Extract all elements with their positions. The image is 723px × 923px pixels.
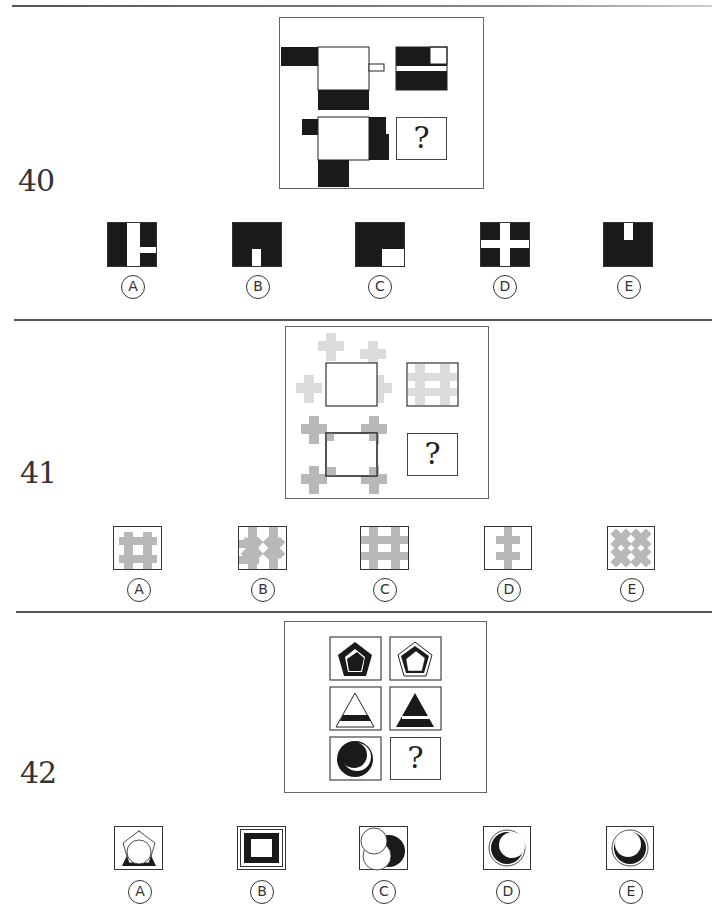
option-label-b: B (250, 880, 274, 904)
option-40-c[interactable] (355, 222, 405, 268)
option-label-a: A (121, 275, 145, 299)
option-41-b[interactable] (238, 526, 288, 571)
option-figure (237, 826, 287, 872)
option-41-d[interactable] (484, 526, 534, 571)
question-mark: ? (424, 436, 440, 471)
option-42-d[interactable] (483, 826, 533, 872)
option-figure (484, 526, 534, 571)
option-figure (238, 526, 288, 571)
question-mark: ? (413, 120, 429, 155)
section-divider-top (12, 5, 712, 7)
option-label-c: C (372, 880, 396, 904)
option-41-e[interactable] (607, 526, 657, 571)
option-figure (480, 222, 530, 268)
option-40-a[interactable] (107, 222, 157, 268)
option-figure (232, 222, 282, 268)
option-label-b: B (251, 578, 275, 602)
section-divider-40-41 (14, 319, 712, 321)
answer-placeholder-cell: ? (407, 433, 458, 476)
option-label-e: E (617, 275, 641, 299)
answer-placeholder-cell: ? (396, 117, 447, 160)
option-figure (359, 826, 409, 872)
option-label-d: D (496, 880, 520, 904)
option-figure (107, 222, 157, 268)
option-label-d: D (493, 275, 517, 299)
option-label-b: B (246, 275, 270, 299)
option-label-a: A (127, 578, 151, 602)
question-mark: ? (407, 740, 423, 775)
option-42-c[interactable] (359, 826, 409, 872)
option-label-d: D (497, 578, 521, 602)
option-figure (355, 222, 405, 268)
option-figure (607, 526, 657, 571)
option-label-c: C (373, 578, 397, 602)
option-42-e[interactable] (606, 826, 656, 872)
option-40-d[interactable] (480, 222, 530, 268)
section-divider-41-42 (16, 611, 712, 613)
option-40-b[interactable] (232, 222, 282, 268)
answer-placeholder-cell: ? (390, 737, 441, 780)
option-41-c[interactable] (360, 526, 410, 571)
option-label-e: E (620, 578, 644, 602)
puzzle-matrix-40: ? (279, 17, 484, 189)
option-41-a[interactable] (113, 526, 163, 571)
option-40-e[interactable] (603, 222, 653, 268)
option-figure (360, 526, 410, 571)
matrix-figures (285, 622, 488, 794)
option-figure (114, 826, 164, 872)
option-label-e: E (619, 880, 643, 904)
option-figure (483, 826, 533, 872)
question-number: 40 (18, 163, 54, 198)
option-42-a[interactable] (114, 826, 164, 872)
option-label-c: C (368, 275, 392, 299)
option-figure (603, 222, 653, 268)
puzzle-matrix-41: ? (285, 326, 489, 499)
option-figure (606, 826, 656, 872)
option-label-a: A (128, 880, 152, 904)
option-figure (113, 526, 163, 571)
puzzle-matrix-42: ? (284, 621, 487, 793)
question-number: 41 (20, 455, 56, 490)
option-42-b[interactable] (237, 826, 287, 872)
question-number: 42 (20, 755, 56, 790)
matrix-figures (280, 18, 485, 190)
matrix-figures (286, 327, 490, 500)
